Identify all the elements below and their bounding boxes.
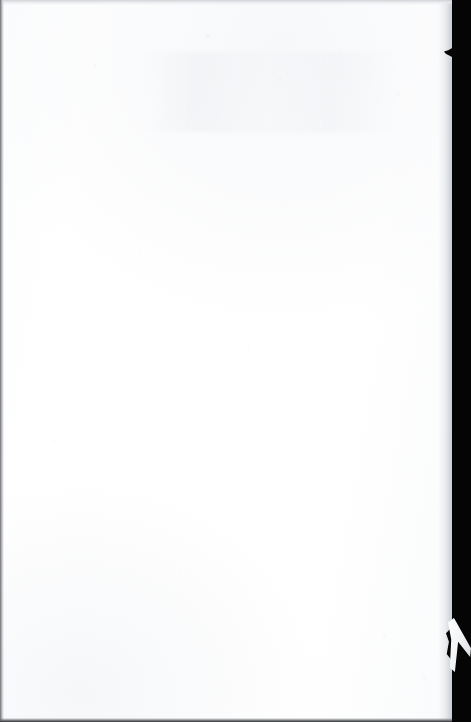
left-edge-line	[0, 0, 4, 722]
scanned-document-view: Blank scanned page	[0, 0, 471, 722]
right-edge-shadow	[438, 0, 452, 722]
paper-grain-texture	[0, 0, 452, 722]
bottom-edge-line	[0, 718, 452, 722]
paper-sheet	[0, 0, 452, 722]
top-edge-line	[0, 0, 452, 5]
bleed-through-smudge	[140, 52, 400, 132]
